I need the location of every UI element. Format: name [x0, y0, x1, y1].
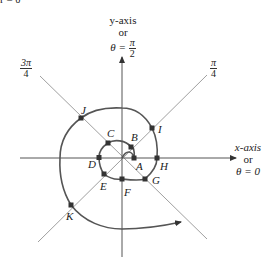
y-axis-label-line2: or	[103, 26, 143, 38]
point-label-j: J	[81, 105, 86, 116]
point-label-c: C	[107, 128, 114, 139]
point-k-marker	[69, 203, 74, 208]
point-label-f: F	[124, 187, 131, 198]
point-g-marker	[143, 177, 148, 182]
y-axis-label-line1: y-axis	[103, 14, 143, 26]
point-label-g: G	[152, 175, 160, 186]
point-c-marker	[106, 141, 111, 146]
point-e-marker	[102, 172, 107, 177]
point-label-h: H	[160, 161, 168, 172]
x-axis-label-line1: x-axis	[228, 141, 268, 153]
point-i-marker	[150, 126, 155, 131]
point-b-marker	[129, 145, 134, 150]
y-axis-label: y-axis or θ = π2	[103, 14, 143, 59]
point-d-marker	[97, 155, 102, 160]
point-label-i: I	[158, 124, 162, 135]
x-axis-label-line3: θ = 0	[228, 165, 268, 177]
angle-label-3pi-over-4: 3π4	[20, 58, 32, 79]
angle-label-pi-over-4: π4	[210, 58, 217, 79]
x-axis-label-line2: or	[228, 153, 268, 165]
point-h-marker	[155, 156, 160, 161]
spiral-diagram: r = θ y-axis or θ = π2 x-axis or θ = 0 3…	[0, 0, 276, 271]
point-j-marker	[79, 116, 84, 121]
header-fragment: r = θ	[0, 0, 21, 5]
point-label-a: A	[136, 161, 143, 172]
point-label-b: B	[131, 132, 138, 143]
point-label-d: D	[88, 159, 96, 170]
point-label-e: E	[100, 181, 107, 192]
point-label-k: K	[66, 211, 73, 222]
point-f-marker	[120, 177, 125, 182]
x-axis-label: x-axis or θ = 0	[228, 141, 268, 177]
y-axis-label-theta: θ = π2	[103, 38, 143, 59]
